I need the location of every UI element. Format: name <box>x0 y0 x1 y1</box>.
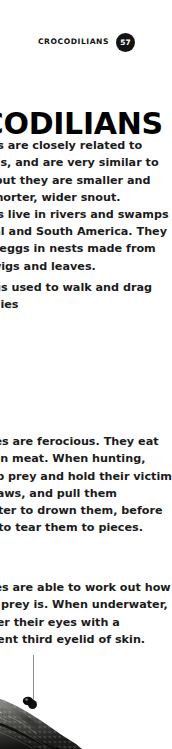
paragraph-intro: Alligators are closely related to crocod… <box>0 137 172 275</box>
paragraph-eyes: Crocodiles are able to work out how far … <box>0 579 172 648</box>
page-title: CROCODILIANS <box>0 108 172 139</box>
running-header: CROCODILIANS 57 <box>0 30 172 54</box>
annotation-legs: Short legs used to walk and drag their b… <box>0 279 172 313</box>
crocodile-head-photo <box>0 686 130 749</box>
page-number-badge: 57 <box>116 33 135 52</box>
running-header-label: CROCODILIANS <box>38 38 109 46</box>
book-page: CROCODILIANS 57 CROCODILIANS Alligators … <box>0 0 172 749</box>
paragraph-hunting: Crocodiles are ferocious. They eat more … <box>0 433 172 536</box>
crocodile-illustration <box>0 686 130 749</box>
